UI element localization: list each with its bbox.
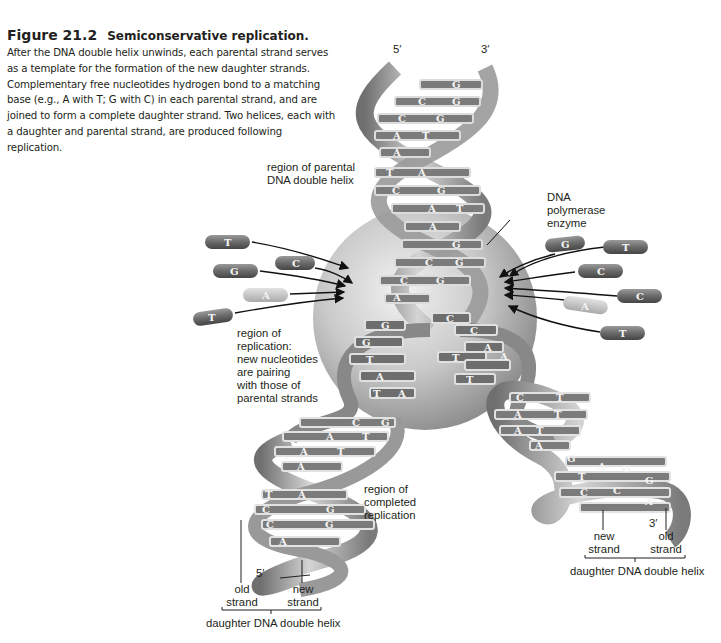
svg-text:A: A (644, 496, 653, 507)
svg-text:C: C (446, 313, 454, 324)
svg-text:T: T (386, 167, 394, 178)
svg-text:C: C (636, 291, 644, 302)
svg-text:A: A (534, 440, 543, 451)
svg-text:T: T (366, 354, 374, 365)
svg-text:A: A (375, 371, 384, 382)
svg-text:A: A (428, 221, 437, 232)
svg-text:G: G (452, 96, 461, 107)
svg-text:T: T (622, 242, 630, 253)
left-old-strand-label: old strand (219, 583, 265, 609)
svg-text:T: T (422, 130, 430, 141)
svg-text:C: C (392, 185, 400, 196)
right-daughter-label: daughter DNA double helix (570, 565, 704, 578)
svg-text:T: T (556, 392, 564, 403)
svg-text:G: G (362, 337, 371, 348)
top-5prime-label: 5′ (393, 43, 401, 56)
svg-text:A: A (261, 290, 270, 301)
svg-text:T: T (224, 237, 232, 248)
svg-text:A: A (297, 489, 306, 500)
svg-text:T: T (578, 471, 586, 482)
svg-text:C: C (580, 487, 588, 498)
svg-text:T: T (554, 409, 562, 420)
svg-text:C: C (262, 504, 270, 515)
svg-text:A: A (392, 130, 401, 141)
svg-text:G: G (622, 463, 631, 474)
svg-text:G: G (381, 417, 390, 428)
svg-text:T: T (208, 312, 216, 323)
svg-text:C: C (425, 257, 433, 268)
svg-text:G: G (325, 519, 334, 530)
right-new-strand-label: new strand (581, 530, 627, 556)
svg-text:G: G (230, 266, 239, 277)
completed-region-label: region of completed replication (364, 483, 416, 522)
svg-text:A: A (325, 431, 334, 442)
svg-text:G: G (452, 79, 461, 90)
polymerase-label: DNA polymerase enzyme (547, 191, 605, 230)
svg-text:T: T (362, 431, 370, 442)
svg-text:A: A (392, 292, 401, 303)
svg-text:A: A (580, 301, 589, 312)
svg-text:C: C (516, 392, 524, 403)
svg-text:G: G (561, 239, 570, 250)
svg-text:C: C (266, 519, 274, 530)
svg-text:C: C (292, 258, 300, 269)
svg-text:C: C (597, 266, 605, 277)
svg-text:G: G (455, 257, 464, 268)
svg-text:A: A (392, 147, 401, 158)
svg-text:C: C (352, 417, 360, 428)
svg-text:G: G (381, 320, 390, 331)
svg-text:G: G (645, 475, 654, 486)
svg-text:A: A (483, 342, 492, 353)
left-5prime-label: 5′ (256, 567, 264, 580)
parental-region-label: region of parental DNA double helix (267, 161, 355, 187)
svg-text:T: T (466, 374, 474, 385)
svg-text:A: A (397, 388, 406, 399)
left-daughter-label: daughter DNA double helix (206, 617, 340, 630)
svg-text:G: G (326, 504, 335, 515)
svg-text:A: A (427, 203, 436, 214)
svg-text:C: C (613, 485, 621, 496)
svg-text:T: T (373, 388, 381, 399)
svg-text:T: T (265, 489, 273, 500)
svg-text:G: G (436, 113, 445, 124)
svg-text:A: A (299, 446, 308, 457)
svg-text:G: G (567, 453, 576, 464)
svg-text:T: T (536, 425, 544, 436)
replication-region-label: region of replication: new nucleotides a… (237, 327, 318, 405)
svg-text:T: T (452, 352, 460, 363)
svg-text:C: C (418, 96, 426, 107)
svg-text:G: G (436, 275, 445, 286)
svg-text:A: A (417, 167, 426, 178)
svg-text:A: A (513, 425, 522, 436)
top-3prime-label: 3′ (481, 43, 489, 56)
right-old-strand-label: old strand (643, 530, 689, 556)
left-new-strand-label: new strand (280, 583, 326, 609)
svg-text:A: A (278, 536, 287, 547)
svg-text:T: T (337, 446, 345, 457)
svg-text:G: G (452, 239, 461, 250)
svg-text:C: C (400, 275, 408, 286)
svg-text:A: A (499, 351, 508, 362)
svg-text:G: G (437, 185, 446, 196)
svg-text:C: C (470, 325, 478, 336)
svg-text:T: T (619, 328, 627, 339)
svg-text:A: A (597, 461, 606, 472)
svg-text:A: A (296, 461, 305, 472)
svg-text:T: T (456, 203, 464, 214)
svg-text:C: C (398, 113, 406, 124)
right-3prime-label: 3′ (649, 517, 657, 530)
svg-text:A: A (513, 409, 522, 420)
